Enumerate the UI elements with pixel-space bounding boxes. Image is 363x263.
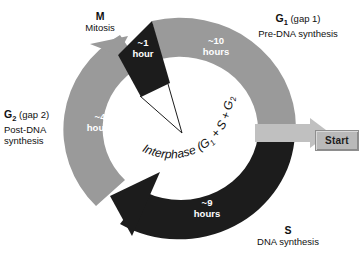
duration-label-g1: ~10 hours [192,36,240,58]
phase-code-s: S [284,224,291,236]
interphase-mid: + S + G [206,100,236,143]
phase-label-s: S DNA synthesis [236,224,340,248]
phase-code-g2: G [4,108,12,120]
phase-desc-m: Mitosis [85,22,115,33]
start-button[interactable]: Start [315,130,359,151]
interphase-tail: ) [0,0,2,3]
start-button-label: Start [325,135,349,146]
phase-subscript-g2: 2 [12,114,16,123]
duration-value-s: ~9 [202,197,213,208]
phase-code-m: M [96,10,105,22]
duration-unit-g2: hours [87,122,113,133]
duration-unit-g1: hours [203,46,229,57]
duration-label-m: ~1 hour [123,38,163,60]
duration-label-s: ~9 hours [183,198,231,220]
duration-value-g1: ~10 [208,35,224,46]
phase-paren-g1: (gap 1) [290,13,320,24]
duration-value-m: ~1 [138,37,149,48]
duration-value-g2: ~4 [95,111,106,122]
phase-desc-g1: Pre-DNA synthesis [258,28,338,39]
phase-desc-g2-line2: synthesis [4,135,44,146]
phase-label-g2: G2 (gap 2) Post-DNA synthesis [4,108,78,146]
phase-code-g1: G [275,12,283,24]
phase-desc-s: DNA synthesis [257,236,319,247]
phase-subscript-g1: 1 [284,18,288,27]
interphase-lead: Interphase (G [140,135,212,161]
phase-desc-g2-line1: Post-DNA [4,124,46,135]
phase-label-m: M Mitosis [68,10,132,34]
phase-label-g1: G1 (gap 1) Pre-DNA synthesis [239,12,357,39]
duration-unit-m: hour [132,48,153,59]
duration-unit-s: hours [194,208,220,219]
phase-paren-g2: (gap 2) [19,109,49,120]
duration-label-g2: ~4 hours [76,112,124,134]
